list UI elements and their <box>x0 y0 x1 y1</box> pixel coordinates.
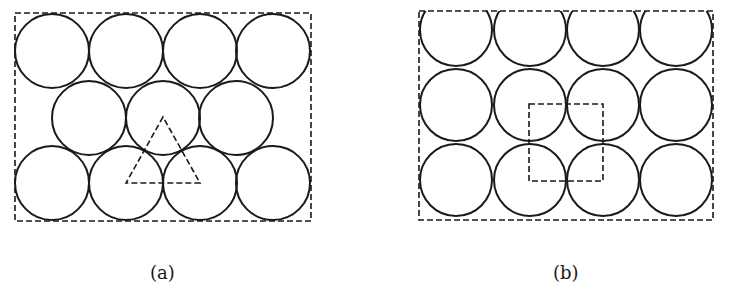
particle-circle <box>567 0 639 66</box>
caption-b: (b) <box>553 262 579 283</box>
particle-circle <box>494 69 566 141</box>
hexagonal-packing-panel <box>15 13 311 221</box>
unit-triangle <box>126 117 200 183</box>
particle-circle <box>494 144 566 216</box>
particle-circle <box>420 0 492 66</box>
particle-circle <box>640 69 712 141</box>
particle-circle <box>494 0 566 66</box>
particle-circle <box>52 81 126 155</box>
particle-circle <box>199 81 273 155</box>
packing-diagram <box>0 0 730 307</box>
particle-circle <box>15 14 89 88</box>
particle-circle <box>236 146 310 220</box>
caption-a: (a) <box>150 262 175 283</box>
circles-group <box>420 0 712 216</box>
particle-circle <box>640 0 712 66</box>
particle-circle <box>236 14 310 88</box>
particle-circle <box>640 144 712 216</box>
unit-square <box>529 104 603 181</box>
particle-circle <box>420 144 492 216</box>
square-packing-panel <box>419 0 713 220</box>
dashed-frame <box>419 11 713 220</box>
particle-circle <box>89 14 163 88</box>
particle-circle <box>420 69 492 141</box>
particle-circle <box>163 14 237 88</box>
particle-circle <box>15 146 89 220</box>
